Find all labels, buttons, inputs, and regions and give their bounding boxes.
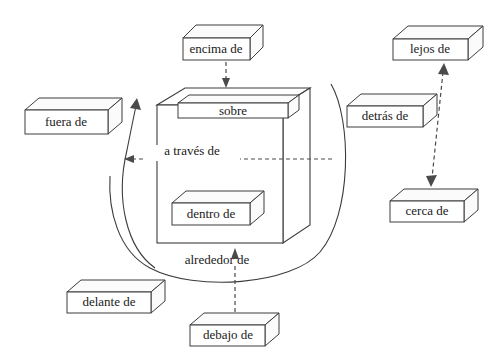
fuera-de-top-face — [25, 98, 122, 110]
fuera-de-label: fuera de — [45, 114, 87, 129]
detras-de-top-face — [347, 94, 437, 106]
box-lejos-de: lejos de — [393, 26, 483, 60]
cerca-de-label: cerca de — [406, 203, 449, 218]
encima-de-arrowhead — [222, 78, 230, 88]
box-cerca-de: cerca de — [390, 189, 478, 222]
debajo-de-label: debajo de — [203, 327, 253, 342]
detras-de-label: detrás de — [362, 108, 409, 123]
box-dentro-de: dentro de — [172, 191, 264, 225]
box-delante-de: delante de — [67, 280, 165, 313]
lejos-de-label: lejos de — [410, 41, 450, 56]
fuera-de-connector — [122, 98, 155, 268]
lejos-cerca-dashed-line — [432, 72, 443, 178]
debajo-de-top-face — [190, 313, 279, 325]
box-detras-de: detrás de — [347, 94, 437, 127]
a-traves-de-label: a través de — [164, 143, 220, 158]
box-fuera-de: fuera de — [25, 98, 122, 134]
dentro-de-top-face — [172, 191, 264, 203]
lejos-cerca-connector — [426, 63, 449, 187]
fuera-de-arrowhead — [130, 98, 141, 110]
delante-de-top-face — [67, 280, 165, 292]
lejos-cerca-arrowhead-top — [438, 63, 449, 75]
encima-de-top-face — [183, 25, 263, 38]
sobre-top-face — [178, 95, 299, 103]
sobre-label: sobre — [219, 103, 247, 118]
prepositions-diagram: sobre a través de dentro de encima de — [0, 0, 499, 359]
alrededor-de-label-group: alrededor de — [163, 252, 271, 269]
debajo-de-connector — [231, 248, 239, 312]
diagram-canvas: sobre a través de dentro de encima de — [0, 0, 499, 359]
cerca-de-top-face — [390, 189, 478, 201]
box-encima-de: encima de — [183, 25, 263, 60]
box-debajo-de: debajo de — [190, 313, 279, 346]
lejos-cerca-arrowhead-bottom — [426, 175, 437, 187]
alrededor-de-label: alrededor de — [185, 252, 250, 267]
encima-de-connector — [222, 62, 230, 88]
fuera-de-curve — [122, 106, 155, 268]
encima-de-label: encima de — [189, 41, 242, 56]
delante-de-label: delante de — [82, 294, 135, 309]
box-sobre: sobre — [178, 95, 299, 118]
dentro-de-label: dentro de — [187, 206, 236, 221]
